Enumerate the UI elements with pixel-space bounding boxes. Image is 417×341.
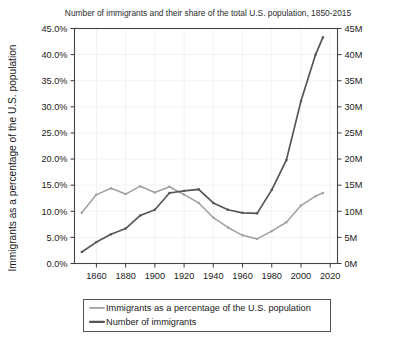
y-tick-label-right: 25M — [345, 128, 363, 138]
data-point — [256, 212, 258, 214]
data-point — [285, 159, 287, 161]
x-tick-label: 2020 — [320, 271, 340, 281]
data-point — [168, 186, 170, 188]
y-tick-label-right: 20M — [345, 154, 363, 164]
data-point — [154, 191, 156, 193]
data-point — [139, 185, 141, 187]
y-tick-label-left: 35.0% — [41, 76, 67, 86]
data-point — [314, 195, 316, 197]
y-tick-label-right: 40M — [345, 50, 363, 60]
data-point — [212, 202, 214, 204]
y-tick-label-left: 15.0% — [41, 180, 67, 190]
y-tick-label-left: 30.0% — [41, 102, 67, 112]
y-axis-title-left: Immigrants as a percentage of the U.S. p… — [7, 44, 18, 271]
data-point — [241, 212, 243, 214]
data-point — [95, 241, 97, 243]
data-point — [271, 189, 273, 191]
data-point — [285, 221, 287, 223]
legend-label-count: Number of immigrants — [106, 317, 197, 327]
data-point — [322, 192, 324, 194]
x-tick-label: 1940 — [203, 271, 223, 281]
y-tick-label-right: 30M — [345, 102, 363, 112]
data-point — [110, 187, 112, 189]
x-tick-label: 1860 — [86, 271, 106, 281]
data-point — [125, 227, 127, 229]
data-point — [81, 251, 83, 253]
data-point — [154, 209, 156, 211]
x-tick-label: 1920 — [174, 271, 194, 281]
data-point — [95, 193, 97, 195]
y-tick-label-right: 45M — [345, 24, 363, 34]
data-point — [300, 100, 302, 102]
y-tick-label-right: 5M — [345, 233, 358, 243]
chart-container: Number of immigrants and their share of … — [0, 0, 417, 341]
x-tick-label: 1960 — [232, 271, 252, 281]
data-point — [271, 230, 273, 232]
data-point — [139, 214, 141, 216]
y-tick-label-left: 10.0% — [41, 207, 67, 217]
data-point — [241, 234, 243, 236]
x-tick-label: 1900 — [145, 271, 165, 281]
y-tick-label-right: 35M — [345, 76, 363, 86]
x-tick-label: 2000 — [291, 271, 311, 281]
data-point — [198, 188, 200, 190]
data-point — [227, 226, 229, 228]
y-tick-label-left: 0.0% — [47, 259, 68, 269]
y-tick-label-left: 25.0% — [41, 128, 67, 138]
data-point — [314, 54, 316, 56]
data-point — [125, 193, 127, 195]
data-point — [183, 193, 185, 195]
y-tick-label-right: 10M — [345, 207, 363, 217]
chart-title: Number of immigrants and their share of … — [65, 8, 352, 18]
data-point — [168, 192, 170, 194]
y-tick-label-left: 45.0% — [41, 24, 67, 34]
data-point — [183, 190, 185, 192]
y-tick-label-right: 15M — [345, 180, 363, 190]
data-point — [110, 233, 112, 235]
data-point — [322, 36, 324, 38]
data-point — [212, 216, 214, 218]
y-tick-label-left: 20.0% — [41, 154, 67, 164]
y-tick-label-right: 0M — [345, 259, 358, 269]
immigration-line-chart: Number of immigrants and their share of … — [0, 0, 417, 341]
data-point — [81, 212, 83, 214]
data-point — [198, 202, 200, 204]
data-point — [256, 238, 258, 240]
data-point — [300, 204, 302, 206]
x-tick-label: 1880 — [115, 271, 135, 281]
legend-label-percentage: Immigrants as a percentage of the U.S. p… — [106, 303, 311, 313]
chart-legend: Immigrants as a percentage of the U.S. p… — [84, 300, 331, 332]
y-tick-label-left: 40.0% — [41, 50, 67, 60]
y-tick-label-left: 5.0% — [47, 233, 68, 243]
x-tick-label: 1980 — [262, 271, 282, 281]
data-point — [227, 209, 229, 211]
